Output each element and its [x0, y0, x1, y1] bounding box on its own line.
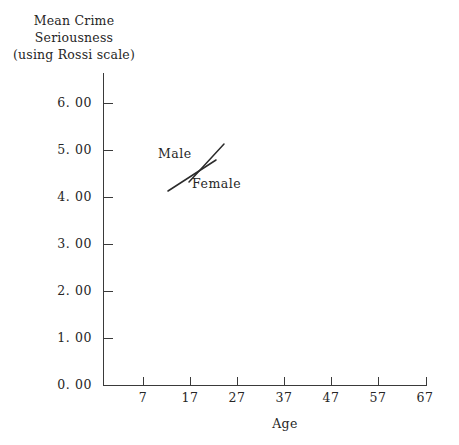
series-label-female: Female	[192, 178, 241, 191]
y-tick-label-6: 6. 00	[36, 97, 92, 110]
y-tick-label-3: 3. 00	[36, 238, 92, 251]
series-label-male: Male	[158, 148, 192, 161]
x-tick-label-67: 67	[405, 392, 445, 405]
y-tick-label-1: 1. 00	[36, 332, 92, 345]
x-tick-7	[143, 377, 144, 386]
y-axis-title: Mean Crime Seriousness (using Rossi scal…	[0, 12, 148, 63]
y-tick-label-0: 0. 00	[36, 379, 92, 392]
x-tick-47	[331, 377, 332, 386]
y-axis-title-line-2: Seriousness	[0, 29, 148, 46]
x-axis-title: Age	[245, 417, 325, 430]
x-tick-57	[378, 377, 379, 386]
y-tick-3	[104, 244, 113, 245]
y-tick-5	[104, 150, 113, 151]
y-tick-4	[104, 197, 113, 198]
y-tick-label-5: 5. 00	[36, 144, 92, 157]
x-tick-17	[190, 377, 191, 386]
x-tick-37	[284, 377, 285, 386]
y-axis-title-line-3: (using Rossi scale)	[0, 46, 148, 63]
y-tick-1	[104, 338, 113, 339]
legend: Male Female	[150, 138, 260, 200]
x-tick-label-57: 57	[358, 392, 398, 405]
y-tick-6	[104, 103, 113, 104]
x-tick-label-7: 7	[123, 392, 163, 405]
x-tick-label-27: 27	[217, 392, 257, 405]
crime-seriousness-by-age-chart: Mean Crime Seriousness (using Rossi scal…	[0, 0, 459, 445]
x-tick-label-37: 37	[264, 392, 304, 405]
x-tick-label-47: 47	[311, 392, 351, 405]
x-tick-label-17: 17	[170, 392, 210, 405]
x-axis-end-cap	[426, 377, 427, 385]
x-tick-27	[237, 377, 238, 386]
y-tick-label-2: 2. 00	[36, 285, 92, 298]
y-axis-title-line-1: Mean Crime	[0, 12, 148, 29]
y-tick-2	[104, 291, 113, 292]
y-tick-label-4: 4. 00	[36, 191, 92, 204]
